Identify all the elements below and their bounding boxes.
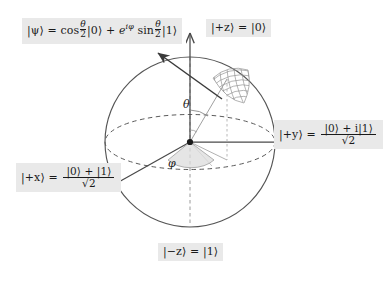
state-eq-phase-exponent: iφ xyxy=(126,22,134,31)
surface-mesh-patch xyxy=(210,68,253,108)
state-equation-label: |ψ⟩ = cosθ2|0⟩ + eiφ sinθ2|1⟩ xyxy=(22,18,182,44)
state-eq-equals: = xyxy=(48,25,57,37)
plus-x-denominator: √2 xyxy=(63,177,114,189)
plus-y-label: |+y⟩ = |0⟩ + i|1⟩ √2 xyxy=(274,120,383,149)
phi-angle-label: φ xyxy=(168,157,176,170)
minus-z-rhs: |1⟩ xyxy=(203,246,218,258)
plus-y-numerator: |0⟩ + i|1⟩ xyxy=(321,123,375,134)
plus-y-equals: = xyxy=(306,129,315,141)
plus-y-denominator: √2 xyxy=(321,134,375,146)
plus-x-label: |+x⟩ = |0⟩ + |1⟩ √2 xyxy=(16,163,121,192)
plus-z-label: |+z⟩ = |0⟩ xyxy=(206,19,271,37)
state-eq-phase: e xyxy=(119,25,126,37)
minus-z-label: |−z⟩ = |1⟩ xyxy=(158,243,223,261)
plus-y-lhs: |+y⟩ xyxy=(279,129,303,141)
plus-z-rhs: |0⟩ xyxy=(251,22,266,34)
plus-x-fraction: |0⟩ + |1⟩ √2 xyxy=(63,166,114,189)
minus-z-lhs: |−z⟩ xyxy=(163,246,186,258)
plus-x-equals: = xyxy=(48,172,57,184)
theta-inner-arc xyxy=(190,130,197,132)
plus-z-lhs: |+z⟩ xyxy=(211,22,234,34)
theta-angle-label: θ xyxy=(183,98,190,111)
minus-z-equals: = xyxy=(190,246,199,258)
state-eq-ket1: |1⟩ xyxy=(162,25,177,37)
state-eq-ket0: |0⟩ xyxy=(87,25,102,37)
state-eq-plus: + xyxy=(106,25,115,37)
theta-over-two-2: θ2 xyxy=(155,20,161,40)
state-eq-lhs: |ψ⟩ xyxy=(27,25,44,37)
state-eq-sin: sin xyxy=(138,25,155,37)
theta-over-two-1: θ2 xyxy=(80,20,86,40)
sphere-center-dot xyxy=(187,139,193,145)
plus-y-fraction: |0⟩ + i|1⟩ √2 xyxy=(321,123,375,146)
plus-x-lhs: |+x⟩ xyxy=(21,172,45,184)
state-eq-cos: cos xyxy=(60,25,79,37)
plus-z-equals: = xyxy=(238,22,247,34)
plus-x-numerator: |0⟩ + |1⟩ xyxy=(63,166,114,177)
mesh-patch-outline xyxy=(213,68,249,103)
